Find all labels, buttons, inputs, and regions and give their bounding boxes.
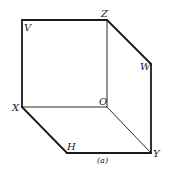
vertex-label-v: V xyxy=(24,22,33,33)
vertex-label-h: H xyxy=(66,141,76,152)
edge-h-x xyxy=(22,107,67,153)
figure-caption: (a) xyxy=(97,156,108,165)
vertex-label-o: O xyxy=(99,96,107,107)
vertex-label-y: Y xyxy=(153,148,161,159)
vertex-label-x: X xyxy=(11,102,20,113)
edge-o-y xyxy=(107,107,151,153)
vertex-label-w: W xyxy=(140,61,151,72)
cube-diagram-svg: V Z W X O H Y (a) xyxy=(0,0,172,174)
edge-z-w xyxy=(107,20,151,64)
cube-diagram: V Z W X O H Y (a) xyxy=(0,0,172,174)
vertex-label-z: Z xyxy=(100,8,109,19)
